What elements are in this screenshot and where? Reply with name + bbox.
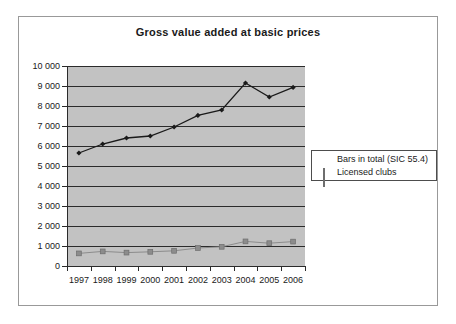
- y-axis-label: 5 000: [20, 161, 60, 171]
- x-axis-label: 2004: [235, 275, 255, 285]
- x-axis-label: 2002: [188, 275, 208, 285]
- data-point-marker: [172, 248, 177, 253]
- data-point-marker: [100, 141, 105, 146]
- legend-item-bars-in-total[interactable]: Bars in total (SIC 55.4): [315, 153, 433, 166]
- x-axis-label: 1997: [69, 275, 89, 285]
- data-point-marker: [243, 239, 248, 244]
- y-axis-label: 9 000: [20, 81, 60, 91]
- diamond-marker-icon: [315, 154, 337, 165]
- legend-label: Licensed clubs: [337, 167, 397, 178]
- x-axis-label: 2001: [164, 275, 184, 285]
- x-axis-label: 2005: [259, 275, 279, 285]
- data-point-marker: [195, 113, 200, 118]
- series-plot: [67, 66, 305, 267]
- data-point-marker: [291, 85, 296, 90]
- y-axis-label: 6 000: [20, 141, 60, 151]
- data-point-marker: [124, 250, 129, 255]
- x-axis-label: 2000: [140, 275, 160, 285]
- y-axis-label: 3 000: [20, 201, 60, 211]
- legend-label: Bars in total (SIC 55.4): [337, 154, 428, 165]
- y-axis-label: 1 000: [20, 241, 60, 251]
- data-point-marker: [124, 135, 129, 140]
- y-axis-labels: 10 000 9 000 8 000 7 000 6 000 5 000 4 0…: [19, 17, 60, 307]
- x-axis-label: 1998: [93, 275, 113, 285]
- chart-frame: Gross value added at basic prices: [18, 16, 438, 306]
- data-point-marker: [77, 251, 82, 256]
- data-point-marker: [267, 241, 272, 246]
- x-axis-label: 2003: [212, 275, 232, 285]
- data-point-marker: [219, 244, 224, 249]
- x-axis-label: 1999: [116, 275, 136, 285]
- y-axis-label: 4 000: [20, 181, 60, 191]
- series-line: [79, 241, 293, 253]
- x-tick: [305, 266, 306, 271]
- chart-legend[interactable]: Bars in total (SIC 55.4) Licensed clubs: [311, 150, 437, 181]
- y-axis-label: 0: [20, 261, 60, 271]
- series-line: [79, 83, 293, 153]
- x-axis-label: 2006: [283, 275, 303, 285]
- data-point-marker: [172, 124, 177, 129]
- y-axis-label: 2 000: [20, 221, 60, 231]
- legend-item-licensed-clubs[interactable]: Licensed clubs: [315, 166, 433, 179]
- data-point-marker: [148, 133, 153, 138]
- square-marker-icon: [315, 167, 337, 178]
- y-axis-label: 8 000: [20, 101, 60, 111]
- data-point-marker: [196, 246, 201, 251]
- y-axis-label: 7 000: [20, 121, 60, 131]
- data-point-marker: [100, 249, 105, 254]
- y-axis-label: 10 000: [20, 61, 60, 71]
- data-point-marker: [148, 249, 153, 254]
- data-point-marker: [76, 150, 81, 155]
- data-point-marker: [291, 239, 296, 244]
